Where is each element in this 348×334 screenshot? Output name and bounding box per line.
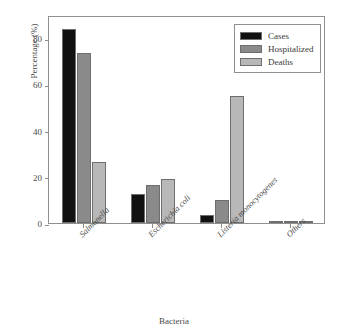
bar-cases: [269, 221, 283, 223]
x-axis-title: Bacteria: [0, 316, 348, 326]
legend-swatch: [240, 32, 262, 40]
y-tick-mark: [45, 86, 49, 87]
legend-item: Cases: [240, 29, 314, 42]
bar-cases: [131, 194, 145, 223]
legend-label: Hospitalized: [268, 44, 314, 54]
legend-item: Deaths: [240, 55, 314, 68]
chart-legend: CasesHospitalizedDeaths: [234, 24, 321, 73]
y-tick-mark: [45, 132, 49, 133]
y-tick-label: 20: [33, 173, 42, 183]
bar-chart-figure: 020406080 Percentage (%) SalmonellaEsche…: [0, 0, 348, 334]
bar-cases: [200, 215, 214, 223]
y-tick-label: 40: [33, 127, 42, 137]
legend-label: Deaths: [268, 57, 293, 67]
bar-group: [131, 17, 175, 223]
bar-hospitalized: [146, 185, 160, 223]
y-tick-mark: [45, 225, 49, 226]
legend-swatch: [240, 58, 262, 66]
y-axis-title: Percentage (%): [29, 0, 39, 121]
bar-hospitalized: [77, 53, 91, 223]
legend-label: Cases: [268, 31, 289, 41]
y-tick-mark: [45, 40, 49, 41]
legend-swatch: [240, 45, 262, 53]
y-tick-label: 0: [38, 219, 43, 229]
y-tick-mark: [45, 178, 49, 179]
bar-group: [62, 17, 106, 223]
legend-item: Hospitalized: [240, 42, 314, 55]
bar-cases: [62, 29, 76, 223]
